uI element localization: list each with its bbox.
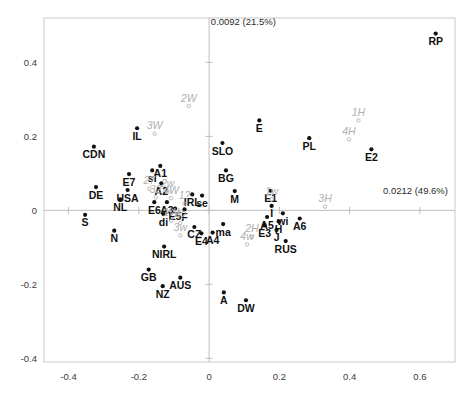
point-label-haplogroup: 1w bbox=[265, 185, 280, 197]
point-label-country: A bbox=[220, 294, 228, 306]
point-label-haplogroup: 2W bbox=[180, 92, 198, 104]
point-label-country: S bbox=[82, 216, 89, 228]
point-label-haplogroup: 3W bbox=[147, 119, 164, 131]
data-point-haplogroup bbox=[357, 119, 360, 122]
y-tick-label: 0 bbox=[32, 205, 37, 216]
data-point-haplogroup bbox=[187, 104, 190, 107]
point-label-country: NL bbox=[113, 201, 128, 213]
x-tick-label: 0.2 bbox=[273, 371, 286, 382]
point-label-haplogroup: 32 bbox=[150, 183, 162, 195]
x-tick-label: -0.4 bbox=[60, 371, 76, 382]
point-label-country: RUS bbox=[275, 243, 297, 255]
point-label-country: SLO bbox=[212, 145, 234, 157]
horizontal-axis-eigenvalue: 0.0212 (49.6%) bbox=[383, 185, 448, 196]
x-tick-label: 0.4 bbox=[343, 371, 356, 382]
point-label-country: A4 bbox=[206, 234, 220, 246]
point-label-haplogroup: 1H bbox=[352, 106, 366, 118]
point-label-haplogroup: 4W bbox=[163, 184, 180, 196]
point-label-country: DE bbox=[89, 189, 104, 201]
point-label-country: A6 bbox=[293, 220, 307, 232]
point-label-country: M bbox=[230, 193, 239, 205]
point-label-country: E bbox=[256, 122, 263, 134]
point-label-country: E7 bbox=[123, 176, 136, 188]
point-label-haplogroup: 1? bbox=[179, 189, 191, 201]
data-point-haplogroup bbox=[245, 243, 248, 246]
data-point-haplogroup bbox=[323, 205, 326, 208]
data-point-haplogroup bbox=[179, 234, 182, 237]
point-label-country: BG bbox=[218, 172, 234, 184]
y-tick-label: 0.2 bbox=[24, 131, 37, 142]
point-label-haplogroup: 4? bbox=[174, 209, 186, 221]
point-label-country: PL bbox=[303, 140, 317, 152]
point-label-country: IL bbox=[132, 130, 142, 142]
plot-canvas: -0.4-0.200.20.40.60.40.20-0.2-0.40.0092 … bbox=[0, 0, 463, 406]
point-label-country: AUS bbox=[169, 279, 191, 291]
data-point-haplogroup bbox=[169, 196, 172, 199]
point-label-haplogroup: 4w bbox=[240, 230, 255, 242]
point-label-country: E2 bbox=[365, 151, 378, 163]
point-label-country: E6 bbox=[148, 204, 161, 216]
point-label-country: GB bbox=[141, 271, 157, 283]
point-label-country: E3 bbox=[258, 227, 271, 239]
point-label-country: RP bbox=[428, 35, 443, 47]
point-label-country: NIRL bbox=[152, 248, 177, 260]
point-label-haplogroup: 3H bbox=[318, 192, 332, 204]
data-point-haplogroup bbox=[347, 138, 350, 141]
data-point-haplogroup bbox=[153, 132, 156, 135]
x-tick-label: 0 bbox=[206, 371, 211, 382]
x-tick-label: -0.2 bbox=[131, 371, 147, 382]
vertical-axis-eigenvalue: 0.0092 (21.5%) bbox=[211, 16, 276, 27]
point-label-haplogroup: 4H bbox=[342, 125, 356, 137]
point-label-country: CDN bbox=[83, 148, 106, 160]
point-label-haplogroup: 3w bbox=[174, 221, 189, 233]
y-tick-label: -0.2 bbox=[21, 279, 37, 290]
point-label-country: se bbox=[196, 197, 208, 209]
y-tick-label: 0.4 bbox=[24, 57, 37, 68]
scatter-plot-figure: -0.4-0.200.20.40.60.40.20-0.2-0.40.0092 … bbox=[0, 0, 463, 406]
x-tick-label: 0.6 bbox=[413, 371, 426, 382]
point-label-country: NZ bbox=[156, 288, 171, 300]
point-label-country: DW bbox=[237, 302, 255, 314]
y-tick-label: -0.4 bbox=[21, 353, 37, 364]
point-label-country: N bbox=[110, 232, 118, 244]
